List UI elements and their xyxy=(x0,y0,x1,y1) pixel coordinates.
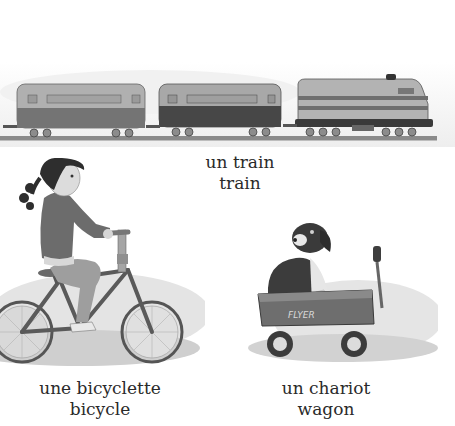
dog-in-wagon-illustration: FLYER xyxy=(248,218,438,368)
wagon-french-label: un chariot xyxy=(256,378,396,399)
wagon-brand-text: FLYER xyxy=(288,310,315,320)
bicycle-english-label: bicycle xyxy=(20,399,180,420)
train-illustration xyxy=(0,62,455,147)
locomotive xyxy=(283,74,433,136)
bicycle-french-label: une bicyclette xyxy=(20,378,180,399)
wagon-caption: un chariot wagon xyxy=(256,378,396,420)
wagon-english-label: wagon xyxy=(256,399,396,420)
picture-book-page: un train train xyxy=(0,0,455,426)
girl-riding-bicycle-illustration xyxy=(0,158,205,370)
bicycle-caption: une bicyclette bicycle xyxy=(20,378,180,420)
